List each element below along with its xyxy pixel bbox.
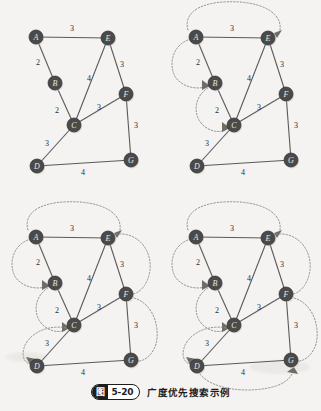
edge-A-E: [196, 237, 268, 238]
edge-C-D: [37, 125, 74, 166]
edge-F-G: [286, 294, 291, 360]
node-label-C: C: [231, 121, 237, 130]
node-label-E: E: [105, 34, 111, 43]
edge-weight-E-C: 4: [87, 74, 91, 83]
node-label-D: D: [193, 362, 200, 371]
node-label-A: A: [193, 33, 199, 42]
node-label-E: E: [265, 234, 271, 243]
edge-weight-A-B: 2: [196, 258, 200, 267]
visit-arc-f-g: [134, 298, 157, 361]
node-label-G: G: [128, 156, 134, 165]
figure-number-badge: 图 5-20: [91, 384, 141, 400]
node-label-B: B: [213, 79, 218, 88]
node-label-F: F: [123, 90, 129, 99]
node-label-B: B: [53, 279, 58, 288]
node-label-C: C: [231, 321, 237, 330]
node-label-A: A: [193, 233, 199, 242]
figure-root: ABCDEFG322433334ABCDEFG322433334ABCDEFG3…: [0, 0, 321, 411]
edge-E-C: [74, 38, 108, 125]
node-label-F: F: [283, 290, 289, 299]
node-label-E: E: [265, 34, 271, 43]
node-label-B: B: [53, 79, 58, 88]
edge-layer: [36, 37, 131, 166]
edge-weight-F-G: 3: [134, 321, 138, 330]
edge-weight-A-B: 2: [196, 58, 200, 67]
node-label-A: A: [33, 233, 39, 242]
edge-layer: [196, 37, 291, 166]
edge-weight-A-E: 3: [230, 224, 234, 233]
edge-A-E: [36, 237, 108, 238]
node-label-D: D: [193, 162, 200, 171]
edge-weight-F-G: 3: [294, 121, 298, 130]
node-layer: ABCDEFG: [189, 30, 299, 174]
edge-weight-A-B: 2: [36, 58, 40, 67]
edge-weight-E-F: 3: [120, 60, 124, 69]
panel-step-1: ABCDEFG322433334: [0, 0, 161, 200]
edge-weight-C-F: 3: [97, 103, 101, 112]
edge-F-G: [286, 94, 291, 160]
node-label-E: E: [105, 234, 111, 243]
edge-weight-C-F: 3: [257, 303, 261, 312]
edge-D-G: [197, 160, 291, 166]
edge-weight-E-F: 3: [280, 60, 284, 69]
node-label-G: G: [128, 356, 134, 365]
edge-D-G: [37, 160, 131, 166]
edge-weight-E-F: 3: [120, 260, 124, 269]
edge-weight-F-G: 3: [134, 121, 138, 130]
edge-weight-E-C: 4: [247, 74, 251, 83]
edge-layer: [36, 237, 131, 366]
node-label-G: G: [288, 356, 294, 365]
visit-arc-layer: [12, 202, 157, 366]
node-label-G: G: [288, 156, 294, 165]
figure-caption: 图 5-20 广度优先搜索示例: [0, 372, 321, 411]
edge-E-C: [234, 238, 268, 325]
edge-weight-A-B: 2: [36, 258, 40, 267]
edge-weight-E-F: 3: [280, 260, 284, 269]
visit-arc-f-g: [294, 298, 317, 361]
edge-layer: [196, 237, 291, 366]
edge-weight-A-E: 3: [70, 24, 74, 33]
panel-step-3: ABCDEFG322433334: [0, 200, 161, 400]
edge-weight-D-G: 4: [81, 168, 85, 177]
panel-step-4: ABCDEFG322433334: [160, 200, 321, 400]
node-label-D: D: [33, 362, 40, 371]
edge-weight-D-G: 4: [241, 168, 245, 177]
edge-weight-F-G: 3: [294, 321, 298, 330]
figure-badge-number: 5-20: [108, 385, 140, 399]
edge-weight-B-C: 2: [215, 106, 219, 115]
edge-F-G: [126, 294, 131, 360]
edge-weight-A-E: 3: [70, 224, 74, 233]
panel-step-3-canvas: ABCDEFG322433334: [0, 200, 161, 400]
edge-weight-C-F: 3: [257, 103, 261, 112]
edge-weight-B-C: 2: [55, 306, 59, 315]
figure-caption-text: 广度优先搜索示例: [147, 385, 230, 399]
edge-weight-C-F: 3: [97, 303, 101, 312]
figure-badge-char: 图: [92, 385, 108, 399]
node-layer: ABCDEFG: [29, 30, 139, 174]
panel-step-2: ABCDEFG322433334: [160, 0, 321, 200]
visit-arc-layer: [172, 2, 282, 132]
edge-weight-E-C: 4: [87, 274, 91, 283]
edge-weight-C-D: 3: [45, 339, 49, 348]
edge-weight-C-D: 3: [205, 139, 209, 148]
edge-D-G: [37, 360, 131, 366]
edge-E-C: [74, 238, 108, 325]
edge-weight-B-C: 2: [55, 106, 59, 115]
edge-E-C: [234, 38, 268, 125]
edge-F-G: [126, 94, 131, 160]
node-label-B: B: [213, 279, 218, 288]
node-layer: ABCDEFG: [189, 230, 299, 374]
edge-weight-C-D: 3: [205, 339, 209, 348]
edge-D-G: [197, 360, 291, 366]
node-label-C: C: [71, 121, 77, 130]
edge-weight-E-C: 4: [247, 274, 251, 283]
panel-step-4-canvas: ABCDEFG322433334: [160, 200, 321, 400]
node-label-C: C: [71, 321, 77, 330]
edge-A-E: [196, 37, 268, 38]
node-label-F: F: [283, 90, 289, 99]
edge-weight-B-C: 2: [215, 306, 219, 315]
node-label-A: A: [33, 33, 39, 42]
node-label-D: D: [33, 162, 40, 171]
panel-step-1-canvas: ABCDEFG322433334: [0, 0, 161, 200]
node-label-F: F: [123, 290, 129, 299]
